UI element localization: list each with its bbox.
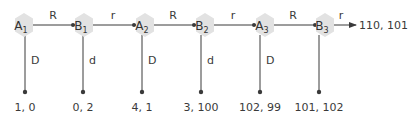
stop-edge-label: D — [266, 54, 274, 67]
node-player: B — [315, 19, 323, 33]
edge-label: R — [169, 9, 177, 22]
terminal-dot — [81, 90, 85, 94]
node-index: 3 — [264, 26, 269, 35]
payoff-label: 102, 99 — [239, 101, 281, 114]
payoff-label: 3, 100 — [184, 101, 219, 114]
node-B1: B1 — [74, 13, 93, 37]
stop-edge-label: D — [148, 54, 156, 67]
stop-edge-label: D — [31, 54, 39, 67]
terminal-dot — [317, 90, 321, 94]
payoff-label: 0, 2 — [73, 101, 94, 114]
payoff-label: 4, 1 — [132, 101, 153, 114]
node-B3: B3 — [315, 13, 334, 37]
payoff-label: 101, 102 — [295, 101, 344, 114]
edge-label: r — [339, 9, 344, 22]
terminal-dot — [199, 90, 203, 94]
edge-label: R — [49, 9, 57, 22]
edge-label: r — [231, 9, 236, 22]
terminal-dot — [140, 90, 144, 94]
centipede-game-tree: R r R r R r 110, 101 D 1, 0 d 0, 2 D 4, … — [0, 0, 408, 120]
node-index: 1 — [23, 26, 28, 35]
terminal-dot — [258, 90, 262, 94]
node-A1: A1 — [14, 13, 33, 37]
terminal-dot — [23, 90, 27, 94]
node-A3: A3 — [255, 13, 274, 37]
node-index: 2 — [144, 26, 149, 35]
edge-label: r — [111, 9, 116, 22]
final-payoff: 110, 101 — [359, 19, 408, 32]
payoff-label: 1, 0 — [15, 101, 36, 114]
node-index: 1 — [83, 26, 88, 35]
node-player: B — [74, 19, 82, 33]
node-A2: A2 — [135, 13, 154, 37]
node-index: 3 — [324, 26, 329, 35]
stop-edge-label: d — [207, 54, 214, 67]
edge-label: R — [289, 9, 297, 22]
node-B2: B2 — [195, 13, 214, 37]
stop-edges: D 1, 0 d 0, 2 D 4, 1 d 3, 100 D 102, 99 … — [15, 35, 344, 114]
node-index: 2 — [204, 26, 209, 35]
node-player: B — [195, 19, 203, 33]
stop-edge-label: d — [89, 54, 96, 67]
